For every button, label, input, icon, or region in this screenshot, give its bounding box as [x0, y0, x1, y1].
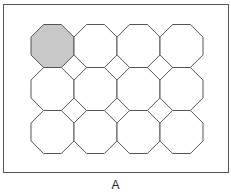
octagon: [160, 111, 203, 154]
octagon: [117, 111, 160, 154]
octagon: [74, 25, 117, 68]
octagon: [31, 68, 74, 111]
octagon: [74, 111, 117, 154]
octagon-tiling: [0, 0, 231, 193]
octagon: [160, 68, 203, 111]
octagon: [74, 68, 117, 111]
figure-caption: A: [0, 178, 231, 192]
octagon: [117, 68, 160, 111]
octagon: [31, 111, 74, 154]
octagon: [160, 25, 203, 68]
octagon-highlighted: [31, 25, 74, 68]
octagon: [117, 25, 160, 68]
